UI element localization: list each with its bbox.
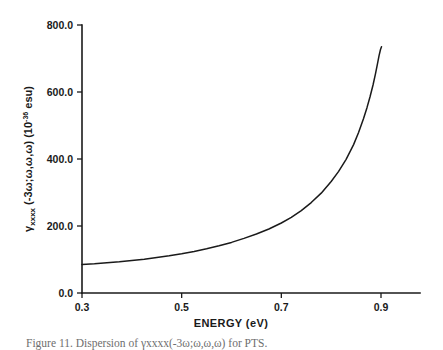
figure-container: 0.0200.0400.0600.0800.0 0.30.50.70.9 ENE… [0,0,443,350]
y-axis-title: γxxxx (-3ω;ω,ω,ω) (10-36 esu) [22,86,37,232]
x-tick-label: 0.3 [75,301,90,313]
dispersion-chart: 0.0200.0400.0600.0800.0 0.30.50.70.9 ENE… [0,0,443,350]
figure-caption-text: Figure 11. Dispersion of γxxxx(-3ω;ω,ω,ω… [26,337,326,350]
data-series-curve [82,47,382,265]
figure-caption: Figure 11. Dispersion of γxxxx(-3ω;ω,ω,ω… [26,337,326,350]
y-axis-tick-labels: 0.0200.0400.0600.0800.0 [47,19,73,299]
x-axis-tick-labels: 0.30.50.70.9 [75,301,389,313]
x-axis-title: ENERGY (eV) [194,317,269,329]
x-tick-label: 0.5 [174,301,189,313]
y-tick-label: 200.0 [47,220,73,232]
x-tick-label: 0.7 [274,301,289,313]
svg-text:γxxxx (-3ω;ω,ω,ω) (10-36 esu): γxxxx (-3ω;ω,ω,ω) (10-36 esu) [22,86,37,232]
y-tick-label: 400.0 [47,153,73,165]
y-tick-label: 600.0 [47,86,73,98]
y-tick-label: 0.0 [58,287,73,299]
y-tick-label: 800.0 [47,19,73,31]
x-tick-label: 0.9 [374,301,389,313]
